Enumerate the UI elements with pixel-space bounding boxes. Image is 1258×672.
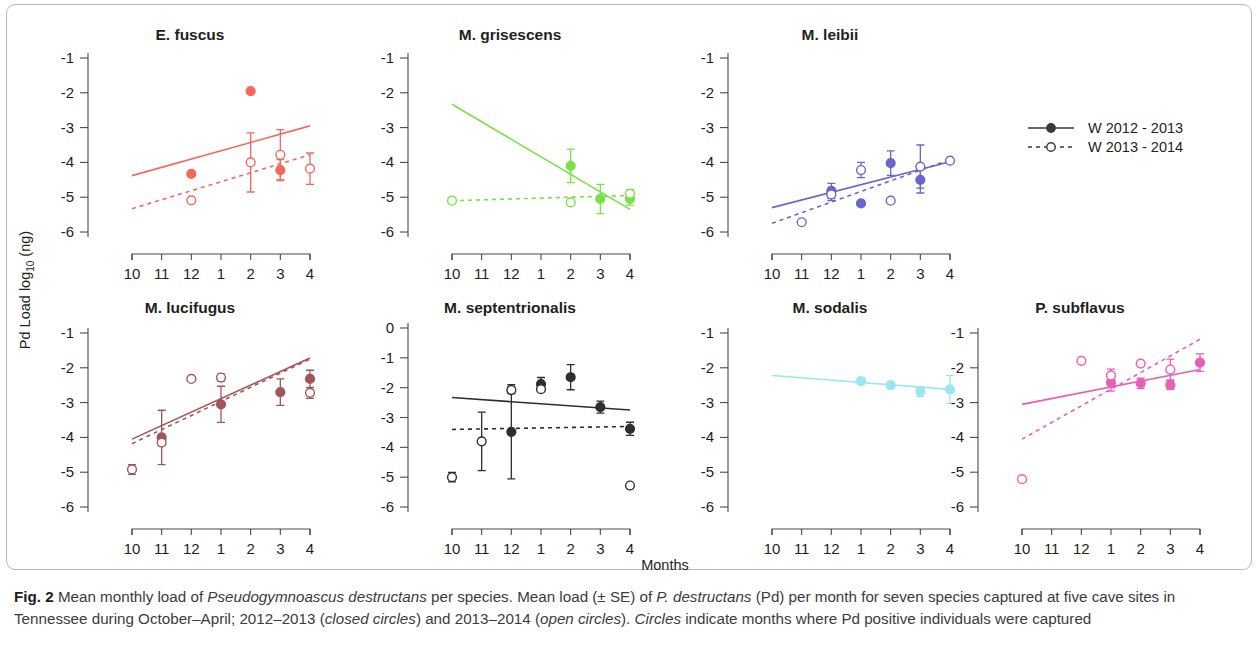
data-point-closed-circle (566, 161, 575, 170)
x-tick-label: 12 (183, 540, 200, 557)
x-tick-label: 1 (217, 265, 225, 282)
data-point-open-circle (128, 465, 137, 474)
y-tick-label: -6 (701, 498, 714, 515)
x-tick-label: 12 (823, 540, 840, 557)
y-tick-label: -3 (951, 394, 964, 411)
y-tick-label: -3 (701, 394, 714, 411)
x-tick-label: 10 (1014, 540, 1031, 557)
x-tick-label: 4 (306, 540, 314, 557)
panel-m-leibii: M. leibii-1-2-3-4-5-61011121234 (701, 26, 955, 282)
x-tick-label: 2 (566, 265, 574, 282)
x-tick-label: 12 (1073, 540, 1090, 557)
data-point-open-circle (1136, 359, 1145, 368)
y-tick-label: -5 (701, 463, 714, 480)
legend-marker-closed-circle (1047, 124, 1055, 132)
data-point-open-circle (306, 388, 315, 397)
x-tick-label: 12 (183, 265, 200, 282)
x-tick-label: 1 (537, 265, 545, 282)
y-tick-label: -3 (61, 119, 74, 136)
panel-m-grisescens: M. grisescens-1-2-3-4-5-61011121234 (381, 26, 635, 282)
y-tick-label: -3 (381, 409, 394, 426)
data-point-open-circle (477, 437, 486, 446)
x-tick-label: 10 (764, 540, 781, 557)
y-tick-label: -5 (951, 463, 964, 480)
x-tick-label: 11 (474, 540, 490, 557)
panel-title: M. grisescens (459, 26, 562, 43)
x-tick-label: 1 (217, 540, 225, 557)
x-tick-label: 10 (124, 265, 141, 282)
caption-seg-5: ). (621, 610, 635, 627)
x-tick-label: 11 (1044, 540, 1060, 557)
y-tick-label: -2 (61, 359, 74, 376)
y-axis-title-main: Pd Load log (17, 272, 33, 349)
data-point-open-circle (306, 164, 315, 173)
data-point-closed-circle (596, 403, 605, 412)
y-tick-label: -5 (61, 188, 74, 205)
y-tick-label: -3 (701, 119, 714, 136)
data-point-open-circle (886, 196, 895, 205)
data-point-open-circle (946, 156, 955, 165)
panel-title: M. sodalis (793, 299, 868, 316)
y-tick-label: -1 (381, 49, 394, 66)
x-tick-label: 3 (596, 265, 604, 282)
y-tick-label: -4 (701, 153, 714, 170)
x-tick-label: 10 (444, 265, 461, 282)
data-point-open-circle (246, 158, 255, 167)
y-tick-label: 0 (386, 319, 394, 336)
y-tick-label: -2 (381, 379, 394, 396)
data-point-closed-circle (276, 388, 285, 397)
panel-m-lucifugus: M. lucifugus-1-2-3-4-5-61011121234 (61, 299, 315, 557)
x-tick-label: 4 (626, 540, 634, 557)
x-tick-label: 2 (246, 265, 254, 282)
x-tick-label: 11 (794, 265, 810, 282)
x-tick-label: 3 (916, 265, 924, 282)
y-tick-label: -1 (61, 49, 74, 66)
y-tick-label: -2 (61, 84, 74, 101)
y-tick-label: -4 (381, 438, 394, 455)
x-tick-label: 3 (1166, 540, 1174, 557)
y-axis-title: Pd Load log10 (ng) (17, 231, 36, 349)
x-tick-label: 4 (946, 540, 954, 557)
x-tick-label: 3 (276, 265, 284, 282)
y-tick-label: -4 (61, 428, 74, 445)
data-point-open-circle (626, 481, 635, 490)
data-point-closed-circle (187, 169, 196, 178)
y-tick-label: -6 (951, 498, 964, 515)
data-point-open-circle (507, 386, 516, 395)
data-point-closed-circle (1196, 358, 1205, 367)
data-point-closed-circle (217, 400, 226, 409)
panel-title: P. subflavus (1035, 299, 1124, 316)
x-axis-title: Months (641, 557, 689, 573)
x-tick-label: 2 (246, 540, 254, 557)
y-tick-label: -3 (381, 119, 394, 136)
caption-italic-open-circles: open circles (540, 610, 621, 627)
caption-figure-label: Fig. 2 (14, 588, 54, 605)
x-tick-label: 3 (916, 540, 924, 557)
panel-title: M. septentrionalis (444, 299, 576, 316)
y-tick-label: -6 (701, 223, 714, 240)
data-point-closed-circle (886, 159, 895, 168)
data-point-closed-circle (857, 377, 866, 386)
data-point-open-circle (448, 196, 457, 205)
data-point-closed-circle (946, 385, 955, 394)
data-point-closed-circle (1166, 381, 1175, 390)
caption-italic-species-1: Pseudogymnoascus destructans (207, 588, 427, 605)
x-tick-label: 3 (276, 540, 284, 557)
legend-marker-open-circle (1047, 143, 1055, 151)
y-tick-label: -1 (701, 49, 714, 66)
data-point-open-circle (448, 473, 457, 482)
data-point-closed-circle (596, 195, 605, 204)
y-tick-label: -3 (61, 394, 74, 411)
data-point-open-circle (1018, 475, 1027, 484)
data-point-closed-circle (626, 424, 635, 433)
caption-seg-6: indicate months where Pd positive indivi… (681, 610, 1091, 627)
caption-seg-4: ) and 2013–2014 ( (416, 610, 540, 627)
x-tick-label: 10 (444, 540, 461, 557)
x-tick-label: 2 (886, 540, 894, 557)
caption-italic-species-2: P. destructans (656, 588, 751, 605)
panel-p-subflavus: P. subflavus-1-2-3-4-5-61011121234 (951, 299, 1205, 557)
x-tick-label: 2 (886, 265, 894, 282)
data-point-open-circle (187, 196, 196, 205)
data-point-open-circle (857, 166, 866, 175)
data-point-open-circle (797, 218, 806, 227)
